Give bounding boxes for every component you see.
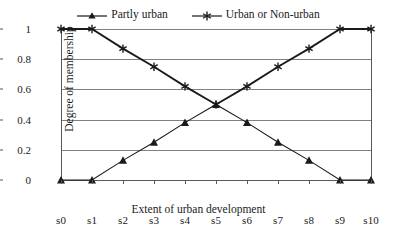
triangle-marker-icon xyxy=(77,8,107,20)
y-axis-title: Degree of membership xyxy=(63,0,75,169)
x-tick-mark xyxy=(278,180,279,184)
data-point-marker xyxy=(150,138,158,145)
series-lines xyxy=(61,29,372,181)
y-tick-label: 1 xyxy=(3,24,31,35)
y-tick-mark xyxy=(0,119,3,120)
x-axis-title: Extent of urban development xyxy=(0,203,397,215)
data-point-marker xyxy=(243,119,251,126)
x-tick-mark xyxy=(216,180,217,184)
legend-label-urban-or-non-urban: Urban or Non-urban xyxy=(226,8,320,20)
y-tick-mark xyxy=(0,149,3,150)
data-point-marker xyxy=(305,44,312,52)
y-tick-mark xyxy=(0,180,3,181)
x-tick-label: s10 xyxy=(351,215,391,226)
data-point-marker xyxy=(150,63,157,71)
x-tick-mark xyxy=(247,180,248,184)
data-point-marker xyxy=(181,119,189,126)
x-tick-mark xyxy=(340,180,341,184)
x-tick-mark xyxy=(154,180,155,184)
y-tick-label: 0 xyxy=(3,175,31,186)
series-line xyxy=(61,105,371,181)
data-point-marker xyxy=(274,63,281,71)
chart-legend: Partly urban Urban or Non-urban xyxy=(0,5,397,23)
legend-label-partly-urban: Partly urban xyxy=(111,8,168,20)
y-tick-label: 0.6 xyxy=(3,84,31,95)
x-tick-mark xyxy=(92,180,93,184)
data-point-marker xyxy=(181,82,188,90)
y-tick-label: 0.8 xyxy=(3,54,31,65)
y-tick-mark xyxy=(0,89,3,90)
x-tick-mark xyxy=(185,180,186,184)
legend-item-urban-or-non-urban: Urban or Non-urban xyxy=(192,8,320,20)
data-point-marker xyxy=(119,156,127,163)
y-tick-mark xyxy=(0,59,3,60)
legend-item-partly-urban: Partly urban xyxy=(77,8,168,20)
plot-area: 00.20.40.60.81 s0s1s2s3s4s5s6s7s8s9s10 D… xyxy=(61,29,372,181)
data-point-marker xyxy=(119,44,126,52)
data-point-marker xyxy=(274,138,282,145)
asterisk-marker-icon xyxy=(192,8,222,20)
series-line xyxy=(61,29,371,105)
data-point-marker xyxy=(305,156,313,163)
data-point-marker xyxy=(243,82,250,90)
y-tick-label: 0.4 xyxy=(3,114,31,125)
y-tick-mark xyxy=(0,29,3,30)
x-tick-mark xyxy=(309,180,310,184)
x-tick-mark xyxy=(123,180,124,184)
chart-container: Partly urban Urban or Non-urban 00.20.4 xyxy=(0,0,397,226)
x-tick-mark xyxy=(371,180,372,184)
y-tick-label: 0.2 xyxy=(3,144,31,155)
x-tick-mark xyxy=(61,180,62,184)
